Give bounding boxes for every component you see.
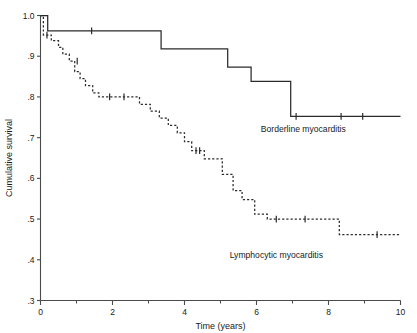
x-axis-tick-label: 8 [326,307,331,317]
y-axis-title: Cumulative survival [4,119,14,197]
chart-text-labels: 1.0.9.8.7.6.5.4.30246810Time (years)Cumu… [4,11,405,331]
y-axis-tick-label: .8 [27,92,34,102]
curve-label-borderline: Borderline myocarditis [261,124,346,134]
survival-chart: 1.0.9.8.7.6.5.4.30246810Time (years)Cumu… [0,0,417,333]
x-axis-tick-label: 10 [396,307,406,317]
curve-label-lymphocytic: Lymphocytic myocarditis [230,250,323,260]
survival-curve-borderline [41,16,401,117]
x-axis-title: Time (years) [195,321,245,331]
x-axis-tick-label: 6 [254,307,259,317]
y-axis-tick-label: .9 [27,51,34,61]
y-axis-tick-label: 1.0 [23,11,35,21]
y-axis-tick-label: .5 [27,214,34,224]
y-axis-tick-label: .6 [27,173,34,183]
x-axis-tick-label: 4 [182,307,187,317]
chart-axes [37,16,401,306]
y-axis-tick-label: .3 [27,296,34,306]
x-axis-tick-label: 0 [38,307,43,317]
chart-curves [41,16,401,238]
x-axis-tick-label: 2 [110,307,115,317]
y-axis-tick-label: .4 [27,255,34,265]
y-axis-tick-label: .7 [27,133,34,143]
